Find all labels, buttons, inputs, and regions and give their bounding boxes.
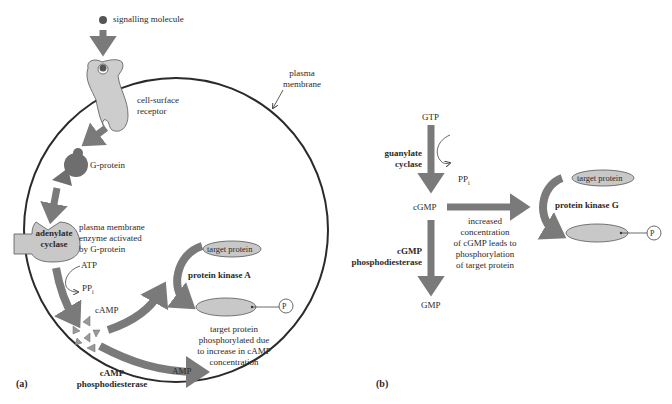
- g-protein-label: G-protein: [90, 160, 125, 171]
- amp-label: AMP: [172, 366, 192, 377]
- target-protein-g-label: target protein: [577, 173, 622, 184]
- phosphorylated-protein-g-ellipse: [566, 224, 628, 242]
- protein-kinase-a-label: protein kinase A: [188, 270, 251, 281]
- protein-kinase-g-label: protein kinase G: [555, 200, 619, 211]
- arrow-receptor-to-gprotein: [90, 128, 106, 140]
- g-protein-shape: [52, 148, 88, 186]
- gtp-side-curve: [437, 135, 450, 164]
- plasma-membrane-label: plasmamembrane: [283, 68, 321, 90]
- atp-label: ATP: [81, 260, 97, 271]
- atp-curve: [66, 266, 80, 292]
- ppi-label-a: PPi: [82, 283, 94, 298]
- gmp-label: GMP: [421, 300, 441, 311]
- membrane-pointer: [273, 90, 283, 108]
- phosphate-g-label: P: [650, 228, 654, 239]
- phosphorylated-note: target proteinphosphorylated dueto incre…: [194, 324, 274, 368]
- signalling-molecule-label: signalling molecule: [113, 14, 184, 25]
- signalling-molecule-icon: [99, 16, 107, 24]
- cgmp-label: cGMP: [413, 202, 437, 213]
- camp-label: cAMP: [95, 305, 119, 316]
- adenylate-cyclase-label: adenylatecyclase: [30, 228, 78, 250]
- ppi-label-b: PPi: [458, 174, 470, 189]
- phosphorylated-protein-a-ellipse: [196, 298, 256, 316]
- guanylate-cyclase-label: guanylatecyclase: [370, 148, 422, 170]
- increase-note: increasedconcentrationof cGMP leads toph…: [445, 216, 525, 271]
- camp-phosphodiesterase-label: cAMPphosphodiesterase: [72, 368, 152, 390]
- gtp-label: GTP: [422, 112, 439, 123]
- panel-a-label: (a): [16, 378, 28, 389]
- receptor-label: cell-surfacereceptor: [137, 95, 179, 117]
- phosphate-a-label: P: [282, 301, 286, 312]
- enzyme-note: plasma membraneenzyme activatedby G-prot…: [79, 222, 145, 255]
- panel-b-label: (b): [376, 378, 388, 389]
- arrow-cyclase-to-camp: [56, 268, 74, 318]
- target-protein-a-label: target protein: [207, 244, 252, 255]
- arrow-gprotein-to-cyclase: [52, 188, 57, 214]
- cgmp-phosphodiesterase-label: cGMPphosphodiesterase: [350, 246, 422, 268]
